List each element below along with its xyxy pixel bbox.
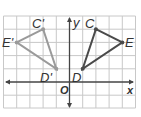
- arrow-down-icon: [67, 103, 72, 108]
- coordinate-plane: C' E' D' C E D y O x: [0, 0, 141, 117]
- vertex-label-d-prime: D': [40, 70, 52, 85]
- origin-label: O: [60, 84, 69, 96]
- vertex-label-d: D: [72, 70, 81, 85]
- vertex-label-c-prime: C': [32, 16, 44, 31]
- triangle-image: [15, 27, 59, 71]
- vertex-label-c: C: [85, 16, 95, 31]
- vertex-label-e: E: [125, 35, 134, 50]
- arrow-left-icon: [5, 80, 10, 85]
- vertex-label-e-prime: E': [2, 35, 14, 50]
- x-axis-label: x: [126, 84, 134, 96]
- y-axis-label: y: [72, 15, 81, 30]
- arrow-up-icon: [67, 17, 72, 22]
- triangle-original: [81, 27, 125, 71]
